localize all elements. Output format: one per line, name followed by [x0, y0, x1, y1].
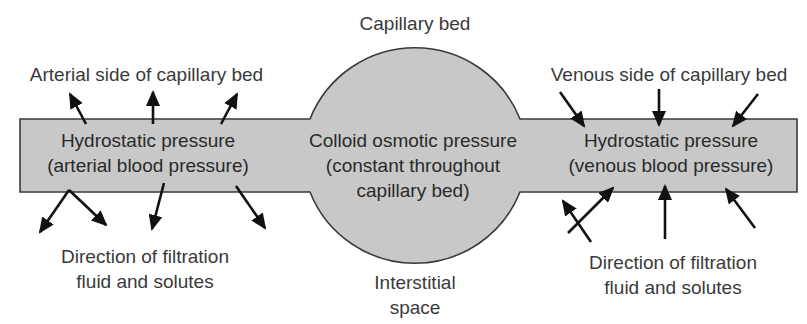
right-filtration-label: Direction of filtration fluid and solute…	[568, 250, 778, 300]
colloid-line1: Colloid osmotic pressure	[293, 128, 533, 153]
right-filtration-line2: fluid and solutes	[568, 275, 778, 300]
left-filtration-line1: Direction of filtration	[40, 244, 250, 269]
arterial-pressure-line2: (arterial blood pressure)	[28, 153, 268, 178]
colloid-line3: capillary bed)	[293, 178, 533, 203]
arterial-side-label: Arterial side of capillary bed	[9, 62, 284, 87]
right-filtration-line1: Direction of filtration	[568, 250, 778, 275]
interstitial-space-label: Interstitial space	[350, 270, 480, 320]
left-filtration-label: Direction of filtration fluid and solute…	[40, 244, 250, 294]
interstitial-line2: space	[350, 295, 480, 320]
interstitial-line1: Interstitial	[350, 270, 480, 295]
colloid-line2: (constant throughout	[293, 153, 533, 178]
colloid-osmotic-pressure-label: Colloid osmotic pressure (constant throu…	[293, 128, 533, 203]
left-filtration-line2: fluid and solutes	[40, 269, 250, 294]
arterial-pressure-label: Hydrostatic pressure (arterial blood pre…	[28, 128, 268, 178]
venous-side-label: Venous side of capillary bed	[533, 62, 805, 87]
capillary-bed-title: Capillary bed	[345, 11, 485, 36]
venous-pressure-label: Hydrostatic pressure (venous blood press…	[553, 128, 789, 178]
venous-pressure-line2: (venous blood pressure)	[553, 153, 789, 178]
venous-pressure-line1: Hydrostatic pressure	[553, 128, 789, 153]
venous-up-arrows	[563, 186, 755, 242]
arterial-pressure-line1: Hydrostatic pressure	[28, 128, 268, 153]
